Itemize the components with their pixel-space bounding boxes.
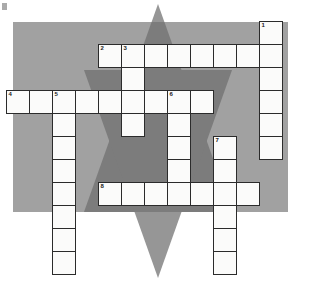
grid-cell[interactable]	[52, 136, 76, 160]
grid-cell[interactable]	[236, 44, 260, 68]
grid-cell[interactable]	[121, 182, 145, 206]
clue-number-3: 3	[124, 45, 127, 52]
crossword-grid[interactable]: 12345678	[0, 0, 310, 290]
clue-number-1: 1	[262, 22, 265, 29]
grid-cell[interactable]	[259, 90, 283, 114]
grid-cell[interactable]	[213, 205, 237, 229]
grid-cell[interactable]	[98, 90, 122, 114]
grid-cell[interactable]	[213, 251, 237, 275]
grid-cell[interactable]	[167, 44, 191, 68]
grid-cell[interactable]	[52, 182, 76, 206]
grid-cell[interactable]	[167, 136, 191, 160]
clue-number-4: 4	[9, 91, 12, 98]
grid-cell[interactable]	[52, 228, 76, 252]
grid-cell[interactable]	[190, 182, 214, 206]
grid-cell[interactable]	[144, 90, 168, 114]
grid-cell-start-3[interactable]: 3	[121, 44, 145, 68]
grid-cell[interactable]	[213, 228, 237, 252]
grid-cell[interactable]	[52, 159, 76, 183]
grid-cell[interactable]	[167, 182, 191, 206]
clue-number-5: 5	[55, 91, 58, 98]
grid-cell-start-2[interactable]: 2	[98, 44, 122, 68]
grid-cell[interactable]	[167, 159, 191, 183]
grid-cell[interactable]	[52, 205, 76, 229]
grid-cell[interactable]	[121, 90, 145, 114]
clue-number-8: 8	[101, 183, 104, 190]
grid-cell-start-8[interactable]: 8	[98, 182, 122, 206]
grid-cell[interactable]	[121, 67, 145, 91]
grid-cell[interactable]	[167, 113, 191, 137]
grid-cell[interactable]	[259, 113, 283, 137]
grid-cell[interactable]	[259, 136, 283, 160]
grid-cell[interactable]	[259, 44, 283, 68]
grid-cell[interactable]	[75, 90, 99, 114]
clue-number-2: 2	[101, 45, 104, 52]
grid-cell[interactable]	[213, 182, 237, 206]
grid-cell-start-6[interactable]: 6	[167, 90, 191, 114]
grid-cell[interactable]	[52, 113, 76, 137]
grid-cell-start-5[interactable]: 5	[52, 90, 76, 114]
grid-cell-start-1[interactable]: 1	[259, 21, 283, 45]
grid-cell[interactable]	[190, 90, 214, 114]
grid-cell[interactable]	[121, 113, 145, 137]
clue-number-6: 6	[170, 91, 173, 98]
grid-cell[interactable]	[144, 182, 168, 206]
grid-cell-start-7[interactable]: 7	[213, 136, 237, 160]
grid-cell[interactable]	[259, 67, 283, 91]
grid-cell-start-4[interactable]: 4	[6, 90, 30, 114]
grid-cell[interactable]	[213, 159, 237, 183]
grid-cell[interactable]	[52, 251, 76, 275]
grid-cell[interactable]	[29, 90, 53, 114]
grid-cell[interactable]	[236, 182, 260, 206]
crossword-puzzle: 12345678	[0, 0, 310, 290]
grid-cell[interactable]	[144, 44, 168, 68]
grid-cell[interactable]	[190, 44, 214, 68]
grid-cell[interactable]	[213, 44, 237, 68]
clue-number-7: 7	[216, 137, 219, 144]
